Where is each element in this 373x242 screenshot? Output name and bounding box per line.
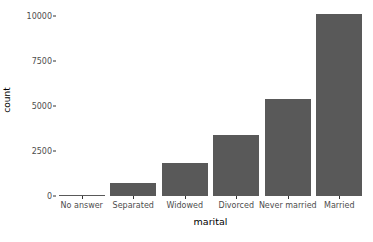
y-axis-title: count (0, 0, 14, 200)
x-axis-tick-label-widowed: Widowed (167, 201, 203, 210)
x-axis-tick-mark-group (56, 196, 365, 200)
x-axis-tick-mark (236, 196, 237, 199)
x-axis-tick-label-separated: Separated (113, 201, 154, 210)
bar-chart: count 025005000750010000 No answerSepara… (0, 0, 373, 242)
y-axis-tick-mark (53, 106, 56, 107)
y-axis-tick-mark (53, 196, 56, 197)
x-axis-tick-label-never-married: Never married (259, 201, 317, 210)
x-axis-tick-label-no-answer: No answer (61, 201, 103, 210)
x-axis-tick-mark (339, 196, 340, 199)
x-axis-title: marital (56, 216, 365, 227)
y-axis-tick-label-group: 025005000750010000 (14, 0, 52, 210)
bar-widowed[interactable] (162, 163, 208, 196)
bar-separated[interactable] (110, 183, 156, 196)
y-axis-tick-mark (53, 151, 56, 152)
y-axis-title-text: count (2, 87, 12, 112)
x-axis-tick-mark (133, 196, 134, 199)
y-axis-tick-label: 5000 (14, 102, 52, 111)
bar-married[interactable] (316, 14, 362, 196)
x-axis-tick-mark (185, 196, 186, 199)
x-axis-tick-label-divorced: Divorced (218, 201, 254, 210)
y-axis-tick-mark (53, 16, 56, 17)
bar-never-married[interactable] (265, 99, 311, 196)
y-axis-tick-label: 0 (14, 192, 52, 201)
x-axis-tick-mark (288, 196, 289, 199)
x-axis-tick-mark (82, 196, 83, 199)
y-axis-tick-label: 7500 (14, 57, 52, 66)
plot-panel (56, 6, 365, 196)
x-axis-tick-label-married: Married (324, 201, 354, 210)
y-axis-tick-label: 10000 (14, 12, 52, 21)
x-axis-tick-label-group: No answerSeparatedWidowedDivorcedNever m… (56, 201, 365, 215)
y-axis-tick-label: 2500 (14, 147, 52, 156)
y-axis-tick-mark (53, 61, 56, 62)
bar-divorced[interactable] (213, 135, 259, 196)
